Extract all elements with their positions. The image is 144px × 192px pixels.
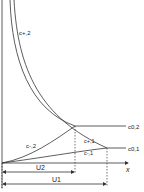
- label-c-minus-2: c-,2: [26, 143, 37, 149]
- x-axis-label: x: [125, 166, 130, 173]
- curve-c-plus-2-outer: [10, 0, 75, 126]
- label-c-zero-2: c0,2: [128, 124, 140, 130]
- diagram-canvas: x c+,2 c-,2 c0,2 c-,1 c+,1 c0,1 U2 U1: [0, 0, 144, 192]
- label-c-zero-1: c0,1: [128, 146, 140, 152]
- label-u1: U1: [52, 176, 61, 183]
- label-c-minus-1: c-,1: [84, 150, 93, 156]
- label-c-plus-1: c+,1: [84, 138, 95, 144]
- label-u2: U2: [36, 164, 45, 171]
- label-c-plus-2: c+,2: [19, 30, 31, 36]
